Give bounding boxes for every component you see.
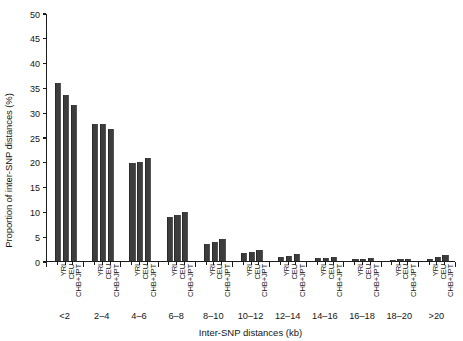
bar-label-chb-jpt: CHB+JPT [224, 264, 232, 297]
plot-area: 05101520253035404550 [46, 14, 455, 262]
bar-label-chb-jpt: CHB+JPT [299, 264, 307, 297]
y-tick-label: 10 [30, 208, 43, 217]
y-tick-mark [43, 13, 47, 14]
bar [256, 250, 262, 260]
y-tick-mark [43, 63, 47, 64]
y-tick-mark [43, 38, 47, 39]
bar [249, 252, 255, 260]
bar-series-container [47, 14, 455, 261]
x-axis-title: Inter-SNP distances (kb) [46, 327, 455, 338]
bar [331, 257, 337, 261]
category-label: 4–6 [131, 312, 146, 321]
category-label: <2 [59, 312, 69, 321]
bar [323, 258, 329, 261]
bar-label-chb-jpt: CHB+JPT [113, 264, 121, 297]
category-label: 6–8 [168, 312, 183, 321]
bar [167, 217, 173, 261]
y-tick-label: 30 [30, 109, 43, 118]
bar [241, 253, 247, 260]
y-tick-label: 5 [35, 233, 43, 242]
bar [315, 258, 321, 260]
bar [278, 257, 284, 261]
category-label: 8–10 [203, 312, 223, 321]
category-label: 12–14 [275, 312, 301, 321]
bar-label-chb-jpt: CHB+JPT [373, 264, 381, 297]
x-axis-category-labels: <22–44–66–88–1010–1212–1414–1616–1818–20… [46, 312, 455, 325]
category-label: 2–4 [94, 312, 109, 321]
bar [405, 259, 411, 261]
y-tick-mark [43, 113, 47, 114]
bar [71, 105, 77, 261]
bar [368, 258, 374, 260]
bar [129, 163, 135, 261]
bar [390, 260, 396, 261]
bar [108, 129, 114, 260]
bar-label-chb-jpt: CHB+JPT [447, 264, 455, 297]
bar [204, 244, 210, 261]
bar [145, 158, 151, 261]
category-label: 10–12 [238, 312, 264, 321]
bar [294, 254, 300, 260]
bar [100, 124, 106, 260]
y-tick-label: 40 [30, 60, 43, 69]
bar [63, 95, 69, 261]
chart-figure: Proportion of inter-SNP distances (%) 05… [0, 0, 463, 341]
y-tick-label: 50 [30, 10, 43, 19]
bar [182, 212, 188, 261]
bar-label-chb-jpt: CHB+JPT [261, 264, 269, 297]
category-label: >20 [429, 312, 445, 321]
y-tick-label: 25 [30, 134, 43, 143]
bar [352, 259, 358, 260]
bar-label-chb-jpt: CHB+JPT [150, 264, 158, 297]
y-tick-mark [43, 162, 47, 163]
bar [137, 162, 143, 261]
bar [174, 215, 180, 261]
y-tick-label: 20 [30, 159, 43, 168]
y-tick-mark [43, 237, 47, 238]
bar-label-chb-jpt: CHB+JPT [336, 264, 344, 297]
x-tick-major [455, 262, 456, 267]
y-tick-label: 45 [30, 35, 43, 44]
bar [360, 259, 366, 261]
y-tick-mark [43, 212, 47, 213]
category-label: 16–18 [349, 312, 375, 321]
category-label: 18–20 [386, 312, 412, 321]
y-tick-mark [43, 88, 47, 89]
bar [212, 242, 218, 260]
bar [442, 255, 448, 260]
bar [55, 83, 61, 261]
bar [435, 257, 441, 261]
bar [427, 259, 433, 261]
bar-label-chb-jpt: CHB+JPT [75, 264, 83, 297]
y-tick-label: 35 [30, 84, 43, 93]
y-tick-mark [43, 137, 47, 138]
bar [219, 239, 225, 260]
bar-label-chb-jpt: CHB+JPT [187, 264, 195, 297]
y-tick-mark [43, 187, 47, 188]
category-label: 14–16 [312, 312, 338, 321]
y-tick-label: 0 [35, 258, 43, 267]
bar [92, 124, 98, 260]
y-tick-label: 15 [30, 184, 43, 193]
bar [286, 256, 292, 261]
y-axis-title: Proportion of inter-SNP distances (%) [0, 0, 16, 341]
bar [397, 259, 403, 260]
bar-group-member-labels: YRICEUCHB+JPTYRICEUCHB+JPTYRICEUCHB+JPTY… [46, 264, 455, 312]
bar-label-chb-jpt: CHB+JPT [410, 264, 418, 297]
